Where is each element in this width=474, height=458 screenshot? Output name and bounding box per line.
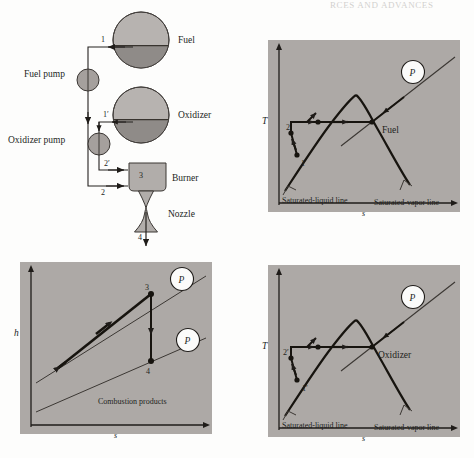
- fuel-pump: Fuel pump: [24, 69, 99, 91]
- hs-pressure-label-lower: P: [184, 336, 191, 346]
- hs-pressure-label-upper: P: [178, 275, 185, 285]
- oxidizer-tank-label: Oxidizer: [178, 110, 212, 120]
- fuel-pump-label: Fuel pump: [24, 69, 65, 79]
- ts-oxidizer-yaxis-label: T: [262, 341, 268, 351]
- hs-diagram-combustion-products: h s P P 3 4 Combustion products: [14, 262, 212, 440]
- ts-fuel-xaxis-label: s: [362, 209, 365, 218]
- hs-state-4-label: 4: [146, 367, 150, 376]
- burner-state-3-label: 3: [139, 171, 143, 180]
- ts-fuel-substance-label: Fuel: [382, 125, 399, 135]
- schematic-state-1-label: 1: [101, 35, 105, 44]
- ts-oxidizer-xaxis-label: s: [362, 434, 365, 443]
- ts-oxidizer-state-1-prime-label: 1′: [302, 384, 308, 393]
- ts-oxidizer-state-2-prime-label: 2′: [283, 348, 289, 357]
- ts-diagram-oxidizer: T s P Oxidize: [262, 265, 460, 443]
- oxidizer-pump: Oxidizer pump: [8, 133, 110, 155]
- ts-fuel-state-1-label: 1: [301, 159, 305, 168]
- ts-fuel-yaxis-label: T: [262, 116, 268, 126]
- ts-fuel-sat-liquid-label: Saturated-liquid line: [282, 196, 348, 205]
- ts-oxidizer-sat-liquid-label: Saturated-liquid line: [282, 421, 348, 430]
- ts-fuel-pressure-label: P: [409, 68, 416, 78]
- burner: 3 Burner: [129, 163, 199, 191]
- schematic-state-2-prime-label: 2′: [104, 159, 110, 168]
- fuel-tank: Fuel: [113, 12, 195, 68]
- panel-background-oxidizer: [268, 265, 460, 437]
- ts-oxidizer-substance-label: Oxidizer: [378, 350, 412, 360]
- schematic-state-2-label: 2: [101, 188, 105, 197]
- schematic-state-4-label: 4: [138, 233, 142, 242]
- oxidizer-pump-label: Oxidizer pump: [8, 135, 66, 145]
- figure-canvas: Fuel Oxidizer 1 Fuel pump 2 1′: [0, 0, 474, 458]
- hs-pressure-marker-upper: P: [171, 268, 194, 291]
- ts-oxidizer-pressure-label: P: [409, 293, 416, 303]
- ts-oxidizer-pressure-marker: P: [402, 286, 425, 309]
- hs-yaxis-label: h: [14, 328, 19, 338]
- fuel-tank-label: Fuel: [178, 35, 195, 45]
- ts-fuel-pressure-marker: P: [402, 61, 425, 84]
- ts-diagram-fuel: T s: [262, 40, 460, 218]
- nozzle: Nozzle: [135, 191, 195, 232]
- hs-state-3-label: 3: [145, 283, 149, 292]
- ts-fuel-state-2-label: 2: [286, 123, 290, 132]
- oxidizer-tank: Oxidizer: [113, 87, 212, 143]
- hs-pressure-marker-lower: P: [177, 329, 200, 352]
- hs-substance-label: Combustion products: [98, 397, 167, 406]
- panel-background-fuel: [268, 40, 460, 212]
- nozzle-label: Nozzle: [168, 209, 195, 219]
- burner-label: Burner: [172, 173, 199, 183]
- figure-rocket-cycle: Fuel Oxidizer 1 Fuel pump 2 1′: [0, 0, 474, 458]
- schematic-state-1-prime-label: 1′: [103, 110, 109, 119]
- ts-oxidizer-sat-vapor-label: Saturated-vapor line: [374, 423, 440, 432]
- hs-xaxis-label: s: [114, 431, 117, 440]
- ts-fuel-sat-vapor-label: Saturated-vapor line: [374, 198, 440, 207]
- rocket-engine-schematic: Fuel Oxidizer 1 Fuel pump 2 1′: [8, 12, 212, 246]
